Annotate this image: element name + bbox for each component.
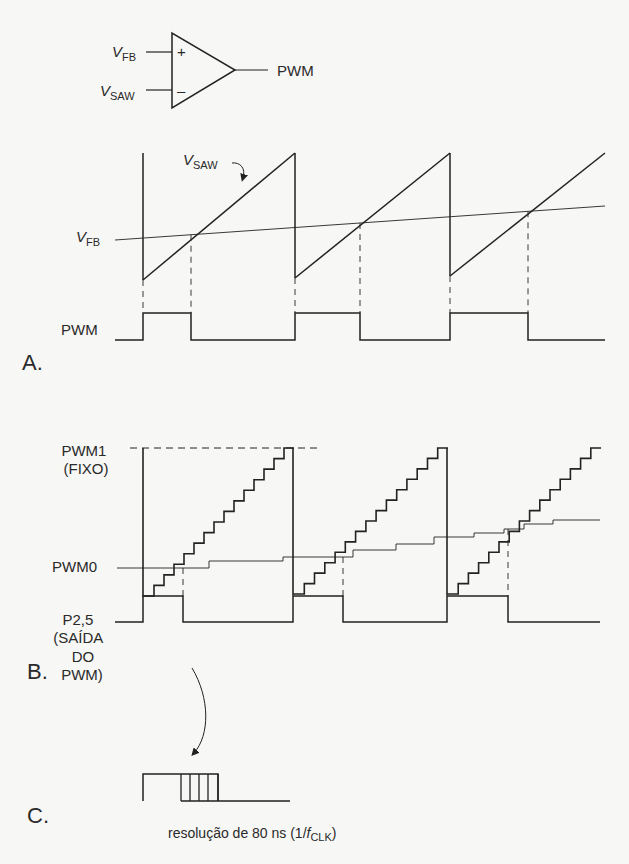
comparator-symbol: + – VFB VSAW PWM	[100, 33, 314, 108]
counter-staircase-period	[447, 448, 601, 594]
section-a-dashed-guides	[143, 211, 528, 313]
resolution-step-lines	[181, 774, 218, 801]
pwm-waveform-label: PWM	[61, 321, 98, 338]
pwm-diagram: + – VFB VSAW PWM VSAW VFB PWM A. PWM1	[0, 0, 629, 864]
section-b-label: B.	[27, 659, 48, 684]
resolution-pulse-waveform	[143, 774, 290, 801]
vfb-level-label: VFB	[76, 228, 100, 248]
p25-output-label: P2,5 (SAÍDA DO PWM)	[53, 611, 106, 683]
section-a-analog-pwm: VSAW VFB PWM A.	[22, 151, 605, 375]
pwm-output-label: PWM	[277, 62, 314, 79]
counter-staircase-period	[143, 448, 294, 596]
p25-output-waveform	[115, 596, 600, 622]
plus-sign: +	[177, 43, 186, 60]
vsaw-pointer-arrow-icon	[232, 163, 244, 178]
saw-ramp	[450, 153, 605, 276]
section-a-pwm-output-waveform	[115, 313, 605, 340]
vsaw-waveform-label: VSAW	[183, 151, 218, 171]
saw-ramp	[295, 153, 450, 278]
pwm1-fixed-label: PWM1 (FIXO)	[61, 442, 110, 477]
pwm0-label: PWM0	[52, 558, 97, 575]
resolution-caption: resolução de 80 ns (1/fCLK)	[168, 825, 337, 843]
zoom-detail-arrow-icon	[192, 668, 206, 753]
section-c-label: C.	[27, 803, 49, 828]
vsaw-input-label: VSAW	[100, 82, 135, 102]
vsaw-sawtooth-waveform	[143, 153, 605, 280]
section-a-label: A.	[22, 350, 43, 375]
counter-staircase-waveform	[143, 448, 601, 596]
minus-sign: –	[177, 82, 186, 99]
pwm0-compare-level-line	[117, 520, 600, 568]
saw-ramp	[143, 153, 295, 280]
section-b-digital-pwm: PWM1 (FIXO) PWM0 P2,5 (SAÍDA DO PWM) B.	[27, 442, 601, 753]
counter-staircase-period	[293, 448, 448, 594]
section-c-resolution-detail: C. resolução de 80 ns (1/fCLK)	[27, 774, 337, 843]
vfb-input-label: VFB	[112, 43, 136, 63]
